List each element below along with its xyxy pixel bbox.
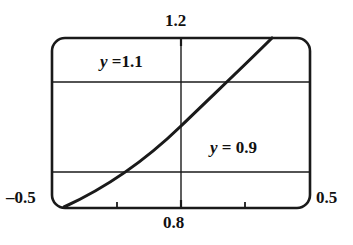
gridlines xyxy=(52,38,310,208)
annotation-y-lower-value: = 0.9 xyxy=(218,138,257,157)
annotation-y-lower: y = 0.9 xyxy=(210,139,257,156)
annotation-y-upper: y =1.1 xyxy=(100,53,143,70)
annotation-y-lower-variable: y xyxy=(210,138,218,157)
data-curve xyxy=(64,38,272,207)
plot-canvas xyxy=(0,0,353,245)
axis-label-top: 1.2 xyxy=(165,12,186,29)
annotation-y-upper-value: =1.1 xyxy=(108,52,143,71)
annotation-y-upper-variable: y xyxy=(100,52,108,71)
axis-label-bottom: 0.8 xyxy=(163,214,184,231)
axis-label-left: –0.5 xyxy=(6,189,36,206)
axis-label-right: 0.5 xyxy=(316,189,337,206)
chart-figure: 1.2 0.8 –0.5 0.5 y =1.1 y = 0.9 xyxy=(0,0,353,245)
